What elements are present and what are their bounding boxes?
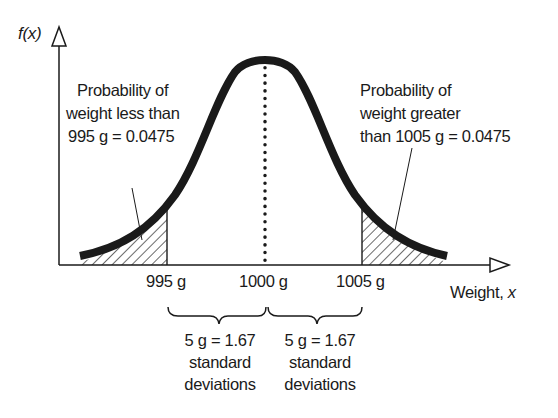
y-axis-label-close: ) <box>36 24 41 43</box>
left-brace <box>168 307 266 324</box>
x-axis-label: Weight, x <box>450 282 516 302</box>
right-brace-label-line-3: deviations <box>268 374 372 394</box>
right-annotation-line-1: Probability of <box>360 80 451 100</box>
right-annotation-line-3: than 1005 g = 0.0475 <box>360 126 510 146</box>
x-axis-label-var: x <box>508 283 516 301</box>
left-brace-label-line-3: deviations <box>168 374 272 394</box>
left-annotation-line-3: 995 g = 0.0475 <box>68 126 174 146</box>
y-axis-label: f(x) <box>18 24 41 44</box>
tick-label-1000: 1000 g <box>239 271 288 291</box>
y-axis-label-var: x <box>28 24 36 43</box>
left-annotation-line-2: weight less than <box>66 103 180 123</box>
tick-label-995: 995 g <box>146 271 186 291</box>
x-axis-label-text: Weight, <box>450 283 508 301</box>
y-axis-arrow-icon <box>52 27 66 46</box>
right-annotation-line-2: weight greater <box>360 103 460 123</box>
right-annotation-leader <box>393 148 412 240</box>
right-brace-label-line-2: standard <box>268 352 372 372</box>
x-axis-arrow-icon <box>490 258 509 272</box>
right-brace <box>268 307 362 324</box>
left-brace-label-line-1: 5 g = 1.67 <box>168 330 272 350</box>
y-axis-label-fn: f( <box>18 24 28 43</box>
right-brace-label-line-1: 5 g = 1.67 <box>268 330 372 350</box>
left-annotation-line-1: Probability of <box>77 80 168 100</box>
tick-label-1005: 1005 g <box>336 271 385 291</box>
left-brace-label-line-2: standard <box>168 352 272 372</box>
